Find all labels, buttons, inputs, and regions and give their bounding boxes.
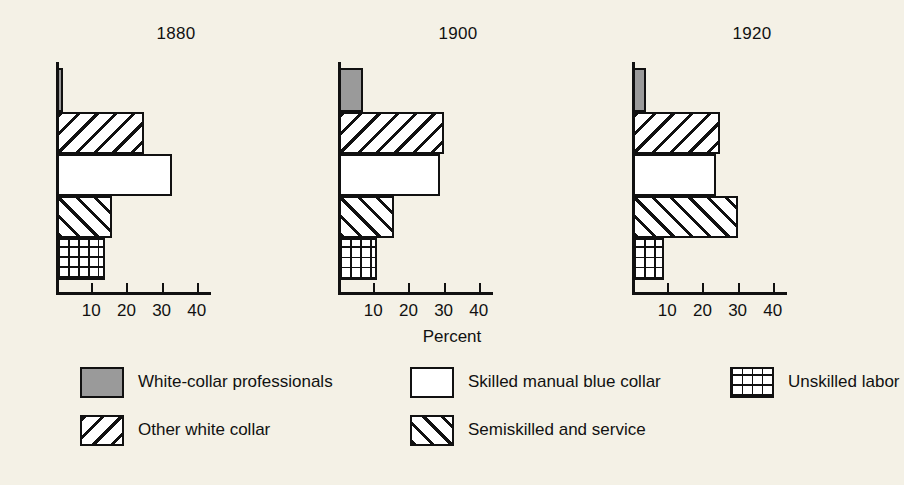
x-tick-label-20: 20 xyxy=(687,301,717,321)
legend-row-1: White-collar professionalsSkilled manual… xyxy=(80,362,870,406)
legend-item: Skilled manual blue collar xyxy=(410,362,661,402)
bar-1920-white xyxy=(632,154,716,196)
plot-area-1900: 10203040 xyxy=(318,62,588,292)
x-tick-40 xyxy=(479,283,481,292)
x-axis-line xyxy=(56,292,211,295)
panel-title-1900: 1900 xyxy=(358,24,558,44)
legend-swatch-white xyxy=(410,367,454,398)
x-tick-10 xyxy=(667,283,669,292)
bar-1880-grid xyxy=(56,238,105,280)
bar-1880-forwardslash xyxy=(56,196,112,238)
bar-1900-white xyxy=(338,154,440,196)
x-tick-30 xyxy=(162,283,164,292)
bar-1920-grid xyxy=(632,238,664,280)
x-tick-30 xyxy=(444,283,446,292)
x-tick-label-40: 40 xyxy=(758,301,788,321)
x-tick-20 xyxy=(408,283,410,292)
legend-swatch-forwardslash xyxy=(410,415,454,446)
bar-1900-grid xyxy=(338,238,377,280)
x-axis-label: Percent xyxy=(0,327,904,347)
legend-item: Semiskilled and service xyxy=(410,410,646,450)
panel-1880: 188010203040 xyxy=(36,0,316,345)
legend-item: Unskilled labor xyxy=(730,362,900,402)
legend-row-2: Other white collarSemiskilled and servic… xyxy=(80,410,870,454)
x-tick-20 xyxy=(126,283,128,292)
legend-label: Semiskilled and service xyxy=(468,420,646,440)
bar-1880-backslash xyxy=(56,112,144,154)
x-tick-label-10: 10 xyxy=(76,301,106,321)
x-tick-label-10: 10 xyxy=(358,301,388,321)
legend-swatch-backslash xyxy=(80,415,124,446)
x-tick-label-20: 20 xyxy=(111,301,141,321)
x-tick-30 xyxy=(738,283,740,292)
legend-swatch-solid-gray xyxy=(80,367,124,398)
x-tick-label-30: 30 xyxy=(723,301,753,321)
bar-1900-backslash xyxy=(338,112,444,154)
bar-1920-forwardslash xyxy=(632,196,738,238)
bar-1880-white xyxy=(56,154,172,196)
x-tick-label-30: 30 xyxy=(147,301,177,321)
panel-title-1920: 1920 xyxy=(652,24,852,44)
y-axis-line xyxy=(56,62,59,294)
x-tick-label-20: 20 xyxy=(393,301,423,321)
x-tick-label-40: 40 xyxy=(182,301,212,321)
panel-1920: 192010203040 xyxy=(612,0,892,345)
legend-label: Other white collar xyxy=(138,420,270,440)
legend-swatch-grid xyxy=(730,367,774,398)
panel-group: 188010203040190010203040192010203040 xyxy=(0,0,904,345)
x-tick-label-10: 10 xyxy=(652,301,682,321)
legend-item: Other white collar xyxy=(80,410,270,450)
y-axis-line xyxy=(632,62,635,294)
x-tick-10 xyxy=(91,283,93,292)
chart-legend: White-collar professionalsSkilled manual… xyxy=(80,362,870,462)
x-tick-10 xyxy=(373,283,375,292)
x-axis-line xyxy=(632,292,787,295)
x-tick-20 xyxy=(702,283,704,292)
legend-label: Unskilled labor xyxy=(788,372,900,392)
x-tick-40 xyxy=(197,283,199,292)
panel-1900: 190010203040 xyxy=(318,0,598,345)
plot-area-1920: 10203040 xyxy=(612,62,882,292)
y-axis-line xyxy=(338,62,341,294)
x-tick-40 xyxy=(773,283,775,292)
x-tick-label-40: 40 xyxy=(464,301,494,321)
x-axis-line xyxy=(338,292,493,295)
panel-title-1880: 1880 xyxy=(76,24,276,44)
plot-area-1880: 10203040 xyxy=(36,62,306,292)
bar-1900-forwardslash xyxy=(338,196,394,238)
legend-label: White-collar professionals xyxy=(138,372,333,392)
bar-1920-backslash xyxy=(632,112,720,154)
bar-1900-solid-gray xyxy=(338,68,363,112)
figure-bar-chart-occupational-distribution: 188010203040190010203040192010203040 Per… xyxy=(0,0,904,485)
legend-label: Skilled manual blue collar xyxy=(468,372,661,392)
x-tick-label-30: 30 xyxy=(429,301,459,321)
legend-item: White-collar professionals xyxy=(80,362,333,402)
